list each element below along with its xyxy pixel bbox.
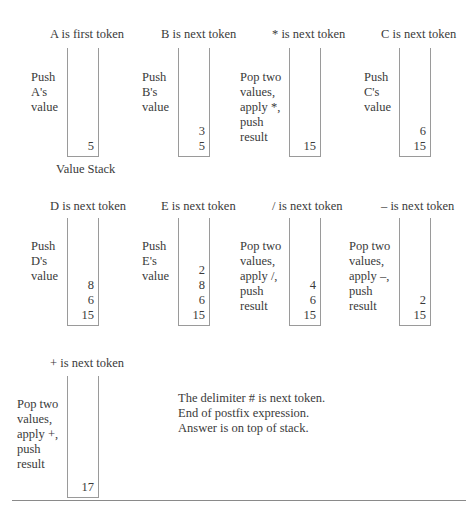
stack-value: 2 xyxy=(414,293,427,308)
horizontal-rule xyxy=(12,500,466,501)
stack-value: 15 xyxy=(304,139,317,154)
description-line: push xyxy=(17,442,58,457)
stack-values: 615 xyxy=(414,124,427,154)
description-line: value xyxy=(142,269,169,284)
description-line: Push xyxy=(31,70,58,85)
value-stack: 15 xyxy=(289,48,321,157)
stack-value: 2 xyxy=(193,263,206,278)
description-line: apply –, xyxy=(349,269,390,284)
description-line: values, xyxy=(240,85,281,100)
stack-value: 15 xyxy=(304,308,317,323)
description-line: Pop two xyxy=(349,239,390,254)
step-description: Pop twovalues,apply –,pushresult xyxy=(349,239,390,314)
stack-values: 4615 xyxy=(304,278,317,323)
value-stack: 35 xyxy=(178,48,210,157)
final-note: The delimiter # is next token.End of pos… xyxy=(178,391,325,436)
description-line: apply +, xyxy=(17,427,58,442)
description-line: Pop two xyxy=(240,70,281,85)
value-stack: 615 xyxy=(399,48,431,157)
panel-title: A is first token xyxy=(50,27,124,42)
description-line: result xyxy=(349,299,390,314)
description-line: Push xyxy=(31,239,58,254)
stack-values: 5 xyxy=(88,139,94,154)
description-line: A's xyxy=(31,85,58,100)
description-line: Push xyxy=(142,239,169,254)
panel-title: D is next token xyxy=(50,199,126,214)
step-description: PushA'svalue xyxy=(31,70,58,115)
description-line: push xyxy=(349,284,390,299)
panel-title: / is next token xyxy=(272,199,342,214)
stack-value: 6 xyxy=(82,293,95,308)
description-line: result xyxy=(240,130,281,145)
value-stack: 4615 xyxy=(289,218,321,326)
panel-title: – is next token xyxy=(381,199,454,214)
value-stack: 215 xyxy=(399,218,431,326)
stack-value: 17 xyxy=(82,480,95,495)
stack-value: 8 xyxy=(82,278,95,293)
step-description: PushC'svalue xyxy=(364,70,391,115)
description-line: values, xyxy=(349,254,390,269)
value-stack: 8615 xyxy=(67,218,99,326)
description-line: result xyxy=(240,299,281,314)
stack-values: 17 xyxy=(82,480,95,495)
final-note-line: End of postfix expression. xyxy=(178,406,325,421)
description-line: push xyxy=(240,284,281,299)
description-line: Pop two xyxy=(240,239,281,254)
description-line: Push xyxy=(364,70,391,85)
stack-value: 5 xyxy=(88,139,94,154)
stack-value: 6 xyxy=(193,293,206,308)
panel-title: B is next token xyxy=(161,27,236,42)
step-description: PushE'svalue xyxy=(142,239,169,284)
stack-value: 15 xyxy=(414,139,427,154)
description-line: B's xyxy=(142,85,169,100)
description-line: values, xyxy=(17,412,58,427)
description-line: values, xyxy=(240,254,281,269)
step-description: Pop twovalues,apply *,pushresult xyxy=(240,70,281,145)
stack-value: 3 xyxy=(199,124,205,139)
description-line: E's xyxy=(142,254,169,269)
stack-value: 15 xyxy=(193,308,206,323)
description-line: C's xyxy=(364,85,391,100)
description-line: Push xyxy=(142,70,169,85)
panel-title: C is next token xyxy=(381,27,456,42)
step-description: Pop twovalues,apply /,pushresult xyxy=(240,239,281,314)
stack-value: 4 xyxy=(304,278,317,293)
final-note-line: Answer is on top of stack. xyxy=(178,421,325,436)
step-description: PushB'svalue xyxy=(142,70,169,115)
stack-values: 215 xyxy=(414,293,427,323)
stack-values: 15 xyxy=(304,139,317,154)
description-line: D's xyxy=(31,254,58,269)
final-note-line: The delimiter # is next token. xyxy=(178,391,325,406)
value-stack: 28615 xyxy=(178,218,210,326)
stack-values: 8615 xyxy=(82,278,95,323)
stack-value: 6 xyxy=(414,124,427,139)
description-line: Pop two xyxy=(17,397,58,412)
description-line: value xyxy=(142,100,169,115)
description-line: value xyxy=(364,100,391,115)
panel-title: E is next token xyxy=(161,199,236,214)
description-line: value xyxy=(31,100,58,115)
stack-value: 6 xyxy=(304,293,317,308)
stack-value: 5 xyxy=(199,139,205,154)
description-line: result xyxy=(17,457,58,472)
stack-value: 15 xyxy=(82,308,95,323)
description-line: apply *, xyxy=(240,100,281,115)
stack-values: 35 xyxy=(199,124,205,154)
value-stack-caption: Value Stack xyxy=(56,162,115,177)
value-stack: 17 xyxy=(67,376,99,498)
step-description: PushD'svalue xyxy=(31,239,58,284)
panel-title: * is next token xyxy=(272,27,345,42)
value-stack: 5 xyxy=(67,48,99,157)
stack-value: 15 xyxy=(414,308,427,323)
panel-title: + is next token xyxy=(50,356,124,371)
description-line: push xyxy=(240,115,281,130)
stack-value: 8 xyxy=(193,278,206,293)
step-description: Pop twovalues,apply +,pushresult xyxy=(17,397,58,472)
description-line: apply /, xyxy=(240,269,281,284)
stack-values: 28615 xyxy=(193,263,206,323)
description-line: value xyxy=(31,269,58,284)
